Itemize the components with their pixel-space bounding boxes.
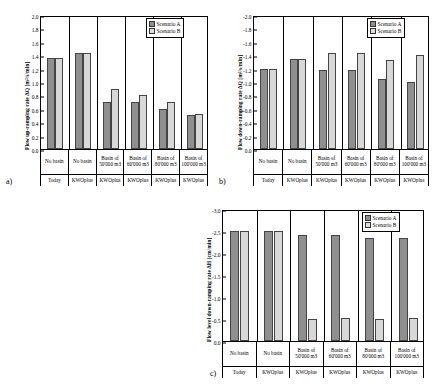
x-axis-category-cell: Basin of50'000 m3KWOplus [312, 150, 341, 186]
x-category-label: Basin of100'000 m3 [400, 150, 428, 175]
x-category-label: No basin [41, 150, 68, 175]
bar-series-b [55, 58, 63, 149]
legend-swatch-icon-a [370, 21, 376, 27]
legend-swatch-icon-b [365, 222, 371, 228]
y-tick-label: -1.5 [212, 274, 223, 280]
y-axis-title-a: Flow up-ramping rate ΔQ [m³/s/min] [24, 62, 30, 150]
legend-entry-scenario-b: Scenario B [149, 28, 180, 35]
x-axis-category-cell: Basin of50'000 m3KWOplus [290, 342, 324, 378]
y-tick-label: 2.0 [32, 14, 41, 20]
legend-entry-scenario-a: Scenario A [365, 215, 396, 222]
bar-series-b [274, 231, 283, 341]
y-tick-label: -1.0 [243, 81, 254, 87]
bar-series-a [260, 69, 268, 149]
x-axis-category-cell: Basin of50'000 m3KWOplus [97, 150, 125, 186]
legend-label-b: Scenario B [373, 222, 397, 229]
y-tick-label: -3.0 [212, 208, 223, 214]
y-tick-label: -0.8 [243, 94, 254, 100]
bar-series-b [83, 53, 91, 149]
x-axis-a: No basinTodayNo basinKWOplusBasin of50'0… [40, 150, 208, 186]
x-category-label: Basin of80'000 m3 [357, 342, 390, 367]
x-axis-category-cell: Basin of100'000 m3KWOplus [400, 150, 429, 186]
x-subcategory-label: KWOplus [97, 175, 124, 186]
y-tick-label: -1.0 [212, 296, 223, 302]
bar-series-b [328, 53, 336, 149]
y-tick-label: 0.2 [32, 135, 41, 141]
x-axis-category-cell: No basinKWOplus [69, 150, 97, 186]
y-tick-label: 0.8 [32, 94, 41, 100]
legend-entry-scenario-b: Scenario B [370, 28, 401, 35]
x-subcategory-label: Today [41, 175, 68, 186]
x-axis-category-cell: Basin of100'000 m3KWOplus [180, 150, 208, 186]
x-axis-category-cell: Basin of60'000 m3KWOplus [342, 150, 371, 186]
x-subcategory-label: KWOplus [312, 175, 340, 186]
y-tick-label: -0.6 [243, 108, 254, 114]
x-subcategory-label: KWOplus [257, 367, 290, 378]
bar-series-b [298, 59, 306, 149]
bar-group [223, 211, 257, 341]
x-category-label: No basin [223, 342, 256, 367]
y-tick-label: -0.5 [212, 318, 223, 324]
x-subcategory-label: KWOplus [391, 367, 424, 378]
x-category-label: No basin [254, 150, 282, 175]
x-subcategory-label: KWOplus [371, 175, 399, 186]
x-axis-category-cell: Basin of60'000 m3KWOplus [124, 150, 152, 186]
x-axis-category-cell: No basinToday [254, 150, 283, 186]
x-subcategory-label: KWOplus [283, 175, 311, 186]
chart-panel-a: Flow up-ramping rate ΔQ [m³/s/min] 0.00.… [0, 0, 216, 192]
x-subcategory-label: KWOplus [152, 175, 179, 186]
x-subcategory-label: KWOplus [180, 175, 207, 186]
x-axis-category-cell: Basin of100'000 m3KWOplus [391, 342, 425, 378]
legend-label-a: Scenario A [373, 215, 397, 222]
legend-b: Scenario A Scenario B [367, 18, 405, 38]
x-axis-category-cell: No basinToday [41, 150, 69, 186]
bar-series-a [348, 70, 356, 149]
legend-swatch-icon-a [365, 215, 371, 221]
bar-group [290, 211, 324, 341]
y-tick-label: 0.6 [32, 108, 41, 114]
bar-series-a [378, 79, 386, 149]
bar-series-a [159, 109, 167, 149]
bar-series-a [298, 235, 307, 341]
bar-group [313, 17, 342, 149]
bar-series-b [308, 319, 317, 341]
panel-tag-c: c) [210, 369, 216, 378]
bar-group [97, 17, 125, 149]
x-category-label: Basin of60'000 m3 [124, 150, 151, 175]
x-category-label: Basin of60'000 m3 [342, 150, 370, 175]
bar-series-a [365, 238, 374, 341]
y-tick-label: 1.2 [32, 68, 41, 74]
x-subcategory-label: Today [254, 175, 282, 186]
y-tick-label: -1.8 [243, 27, 254, 33]
x-axis-b: No basinTodayNo basinKWOplusBasin of50'0… [253, 150, 429, 186]
x-axis-category-cell: No basinKWOplus [257, 342, 291, 378]
x-subcategory-label: KWOplus [124, 175, 151, 186]
legend-swatch-icon-a [149, 21, 155, 27]
bar-series-b [240, 231, 249, 341]
x-subcategory-label: KWOplus [400, 175, 428, 186]
y-tick-label: -1.6 [243, 41, 254, 47]
legend-entry-scenario-b: Scenario B [365, 222, 396, 229]
x-axis-category-cell: Basin of80'000 m3KWOplus [357, 342, 391, 378]
legend-label-a: Scenario A [157, 21, 181, 28]
panel-tag-a: a) [6, 177, 12, 186]
bar-series-b [111, 89, 119, 149]
bar-group [181, 17, 209, 149]
bar-group [283, 17, 312, 149]
bar-series-a [103, 102, 111, 149]
x-axis-category-cell: Basin of80'000 m3KWOplus [152, 150, 180, 186]
bar-series-b [139, 95, 147, 149]
bar-group [41, 17, 69, 149]
x-category-label: No basin [69, 150, 96, 175]
panel-tag-b: b) [219, 177, 226, 186]
legend-swatch-icon-b [149, 28, 155, 34]
bar-group [324, 211, 358, 341]
bar-group [257, 211, 291, 341]
x-category-label: Basin of60'000 m3 [324, 342, 357, 367]
legend-label-b: Scenario B [378, 28, 402, 35]
bar-series-a [331, 235, 340, 341]
bar-group [254, 17, 283, 149]
legend-c: Scenario A Scenario B [362, 212, 400, 232]
bar-series-a [290, 59, 298, 149]
bar-series-b [269, 69, 277, 149]
